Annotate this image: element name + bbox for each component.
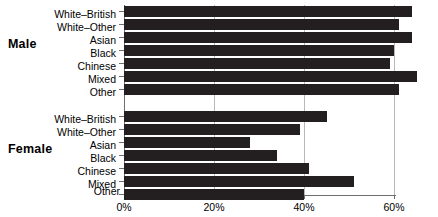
bar-male-2: [124, 32, 412, 43]
bar-female-2: [124, 137, 250, 148]
row-tick-male-2: [119, 37, 124, 38]
bar-chart: Male Female White–British White–Other As…: [0, 0, 438, 217]
cat-label-male-1: White–Other: [57, 22, 116, 32]
cat-label-male-5: Mixed: [88, 74, 116, 84]
tick-label-20: 20%: [203, 201, 224, 213]
bar-male-6: [124, 84, 399, 95]
row-tick-male-6: [119, 89, 124, 90]
bar-male-0: [124, 6, 412, 17]
bar-male-5: [124, 71, 417, 82]
group-label-male: Male: [8, 37, 37, 51]
row-tick-female-3: [119, 155, 124, 156]
bar-female-1: [124, 124, 300, 135]
cat-label-male-4: Chinese: [77, 61, 116, 71]
tick-label-60: 60%: [383, 201, 404, 213]
cat-label-female-6: Other: [94, 186, 120, 196]
cat-label-female-4: Chinese: [77, 166, 116, 176]
row-tick-female-1: [119, 129, 124, 130]
tick-60: [394, 195, 395, 199]
tick-label-0: 0%: [116, 201, 131, 213]
bar-female-4: [124, 163, 309, 174]
row-tick-male-1: [119, 24, 124, 25]
cat-label-female-1: White–Other: [57, 127, 116, 137]
cat-label-male-6: Other: [90, 87, 116, 97]
row-tick-female-0: [119, 116, 124, 117]
bar-male-3: [124, 45, 394, 56]
cat-label-female-3: Black: [90, 153, 116, 163]
row-tick-male-0: [119, 11, 124, 12]
bar-female-0: [124, 111, 327, 122]
row-tick-male-5: [119, 76, 124, 77]
row-tick-female-2: [119, 142, 124, 143]
bar-female-6: [124, 189, 304, 200]
cat-label-male-0: White–British: [54, 9, 116, 19]
bar-female-3: [124, 150, 277, 161]
tick-label-40: 40%: [293, 201, 314, 213]
row-tick-female-4: [119, 168, 124, 169]
bar-male-1: [124, 19, 399, 30]
cat-label-female-2: Asian: [90, 140, 116, 150]
row-tick-female-6: [119, 194, 124, 195]
row-tick-male-3: [119, 50, 124, 51]
group-label-female: Female: [8, 142, 52, 156]
cat-label-male-2: Asian: [90, 35, 116, 45]
cat-label-male-3: Black: [90, 48, 116, 58]
row-tick-female-5: [119, 181, 124, 182]
cat-label-female-0: White–British: [54, 114, 116, 124]
bar-male-4: [124, 58, 390, 69]
row-tick-male-4: [119, 63, 124, 64]
bar-female-5: [124, 176, 354, 187]
tick-40: [304, 195, 305, 199]
